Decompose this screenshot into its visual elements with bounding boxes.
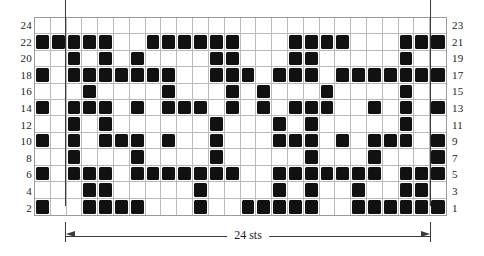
chart-cell-filled[interactable] (98, 199, 114, 215)
chart-cell-empty[interactable] (335, 182, 351, 198)
chart-cell-filled[interactable] (351, 182, 367, 198)
chart-cell-filled[interactable] (98, 116, 114, 132)
chart-cell-filled[interactable] (161, 84, 177, 100)
chart-cell-empty[interactable] (114, 116, 130, 132)
chart-cell-filled[interactable] (272, 133, 288, 149)
chart-cell-empty[interactable] (193, 149, 209, 165)
chart-cell-empty[interactable] (320, 182, 336, 198)
chart-cell-filled[interactable] (67, 67, 83, 83)
chart-cell-empty[interactable] (383, 182, 399, 198)
chart-cell-filled[interactable] (193, 34, 209, 50)
chart-cell-filled[interactable] (35, 133, 51, 149)
chart-cell-filled[interactable] (209, 166, 225, 182)
chart-cell-filled[interactable] (241, 199, 257, 215)
chart-cell-filled[interactable] (351, 199, 367, 215)
chart-cell-filled[interactable] (288, 166, 304, 182)
chart-cell-empty[interactable] (320, 116, 336, 132)
chart-cell-filled[interactable] (414, 182, 430, 198)
chart-cell-empty[interactable] (130, 84, 146, 100)
chart-cell-filled[interactable] (288, 34, 304, 50)
chart-cell-filled[interactable] (67, 116, 83, 132)
chart-cell-filled[interactable] (98, 182, 114, 198)
chart-cell-filled[interactable] (430, 166, 446, 182)
chart-cell-filled[interactable] (82, 67, 98, 83)
chart-cell-filled[interactable] (225, 67, 241, 83)
chart-cell-empty[interactable] (130, 116, 146, 132)
chart-cell-empty[interactable] (320, 133, 336, 149)
chart-cell-filled[interactable] (320, 34, 336, 50)
chart-cell-filled[interactable] (399, 199, 415, 215)
chart-cell-empty[interactable] (241, 133, 257, 149)
chart-cell-empty[interactable] (114, 100, 130, 116)
chart-cell-filled[interactable] (399, 51, 415, 67)
chart-cell-empty[interactable] (177, 116, 193, 132)
chart-cell-empty[interactable] (430, 116, 446, 132)
chart-cell-empty[interactable] (256, 149, 272, 165)
chart-cell-filled[interactable] (367, 67, 383, 83)
chart-cell-empty[interactable] (130, 34, 146, 50)
chart-cell-empty[interactable] (414, 100, 430, 116)
chart-cell-empty[interactable] (272, 51, 288, 67)
chart-cell-filled[interactable] (225, 84, 241, 100)
chart-cell-filled[interactable] (399, 116, 415, 132)
chart-cell-empty[interactable] (383, 166, 399, 182)
chart-cell-filled[interactable] (35, 199, 51, 215)
chart-cell-empty[interactable] (130, 182, 146, 198)
chart-cell-filled[interactable] (335, 166, 351, 182)
chart-cell-empty[interactable] (225, 149, 241, 165)
chart-cell-filled[interactable] (335, 133, 351, 149)
chart-cell-filled[interactable] (414, 199, 430, 215)
chart-cell-filled[interactable] (304, 100, 320, 116)
chart-cell-empty[interactable] (430, 18, 446, 34)
chart-cell-filled[interactable] (272, 182, 288, 198)
chart-cell-empty[interactable] (414, 51, 430, 67)
chart-cell-empty[interactable] (288, 84, 304, 100)
chart-cell-filled[interactable] (430, 100, 446, 116)
chart-cell-empty[interactable] (209, 100, 225, 116)
chart-cell-empty[interactable] (177, 199, 193, 215)
chart-cell-empty[interactable] (241, 182, 257, 198)
chart-cell-empty[interactable] (320, 199, 336, 215)
chart-cell-filled[interactable] (335, 34, 351, 50)
chart-cell-empty[interactable] (225, 133, 241, 149)
chart-cell-filled[interactable] (430, 67, 446, 83)
chart-cell-empty[interactable] (351, 84, 367, 100)
chart-cell-empty[interactable] (414, 84, 430, 100)
chart-cell-empty[interactable] (82, 18, 98, 34)
chart-cell-empty[interactable] (256, 133, 272, 149)
chart-cell-filled[interactable] (399, 84, 415, 100)
chart-cell-empty[interactable] (35, 149, 51, 165)
chart-cell-filled[interactable] (35, 166, 51, 182)
chart-cell-filled[interactable] (98, 34, 114, 50)
chart-cell-empty[interactable] (209, 18, 225, 34)
chart-cell-empty[interactable] (272, 100, 288, 116)
chart-cell-empty[interactable] (256, 51, 272, 67)
chart-cell-filled[interactable] (161, 133, 177, 149)
chart-cell-filled[interactable] (193, 100, 209, 116)
chart-cell-filled[interactable] (177, 34, 193, 50)
chart-cell-filled[interactable] (272, 166, 288, 182)
chart-cell-empty[interactable] (414, 149, 430, 165)
chart-cell-filled[interactable] (35, 34, 51, 50)
chart-cell-filled[interactable] (304, 51, 320, 67)
chart-cell-filled[interactable] (304, 182, 320, 198)
chart-cell-filled[interactable] (98, 51, 114, 67)
chart-cell-filled[interactable] (130, 51, 146, 67)
chart-cell-empty[interactable] (114, 149, 130, 165)
chart-cell-filled[interactable] (351, 67, 367, 83)
chart-cell-empty[interactable] (414, 18, 430, 34)
chart-cell-empty[interactable] (35, 18, 51, 34)
chart-cell-filled[interactable] (367, 166, 383, 182)
chart-cell-empty[interactable] (335, 199, 351, 215)
chart-cell-filled[interactable] (399, 100, 415, 116)
chart-cell-empty[interactable] (241, 100, 257, 116)
chart-cell-filled[interactable] (304, 199, 320, 215)
chart-cell-empty[interactable] (193, 133, 209, 149)
chart-cell-empty[interactable] (399, 149, 415, 165)
chart-cell-filled[interactable] (320, 100, 336, 116)
chart-cell-filled[interactable] (272, 67, 288, 83)
chart-cell-empty[interactable] (114, 182, 130, 198)
chart-cell-empty[interactable] (241, 34, 257, 50)
chart-cell-empty[interactable] (256, 18, 272, 34)
chart-cell-filled[interactable] (399, 67, 415, 83)
